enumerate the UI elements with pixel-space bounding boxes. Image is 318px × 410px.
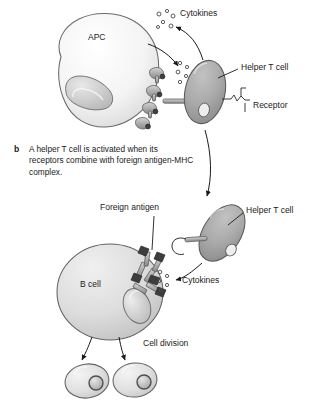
cytokine-release-arrow-top (176, 27, 203, 60)
panel-connector-arrow (205, 130, 211, 196)
cytokines-label-bottom: Cytokines (182, 276, 219, 285)
cell-division-label: Cell division (143, 339, 188, 348)
t-cell-receptor-top (222, 88, 250, 112)
cytokine-molecules-mid (176, 61, 188, 83)
cytokine-molecules-top (157, 9, 176, 28)
helper-t-cell-label-bottom: Helper T cell (246, 206, 293, 215)
cell-division-arrow-left (82, 337, 92, 360)
receptor-binding-hook (172, 238, 186, 255)
foreign-antigen-leader (152, 216, 154, 250)
panel-letter: b (14, 144, 19, 155)
helper-t-cell-label-top: Helper T cell (241, 63, 288, 72)
daughter-cell-right (111, 361, 158, 399)
caption-text: A helper T cell is activated when its re… (14, 144, 194, 178)
receptor-label: Receptor (253, 101, 288, 110)
daughter-cell-left (63, 361, 111, 401)
cytokines-label-top: Cytokines (180, 9, 217, 18)
b-cell-label: B cell (80, 280, 101, 289)
helper-t-cell-bottom (185, 197, 255, 270)
foreign-antigen-label: Foreign antigen (100, 203, 159, 212)
t-cell-receptor-stalk-top (163, 99, 187, 103)
panel-caption: b A helper T cell is activated when its … (14, 144, 194, 178)
cell-division-arrow-right (119, 337, 125, 360)
helper-t-cell-top (163, 57, 231, 128)
apc-label: APC (88, 33, 105, 42)
